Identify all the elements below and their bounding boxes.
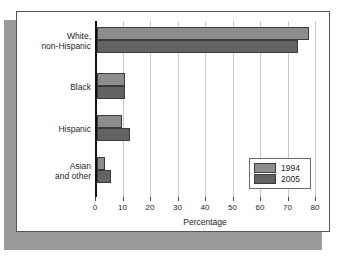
legend-item[interactable]: 1994 xyxy=(254,163,306,173)
category-label: White, non-Hispanic xyxy=(15,31,91,52)
legend-label-2005: 2005 xyxy=(281,174,300,184)
category-label: Asian and other xyxy=(15,161,91,182)
category-labels: White, non-HispanicBlackHispanicAsian an… xyxy=(17,12,329,231)
top-caption-text xyxy=(4,0,344,9)
chart-panel: 01020304050607080 Percentage White, non-… xyxy=(16,11,330,232)
legend-item[interactable]: 2005 xyxy=(254,174,306,184)
category-label: Hispanic xyxy=(15,124,91,135)
legend-swatch-1994 xyxy=(254,163,276,173)
chart-legend: 1994 2005 xyxy=(249,158,311,189)
legend-swatch-2005 xyxy=(254,174,276,184)
legend-label-1994: 1994 xyxy=(281,163,300,173)
category-label: Black xyxy=(15,82,91,93)
